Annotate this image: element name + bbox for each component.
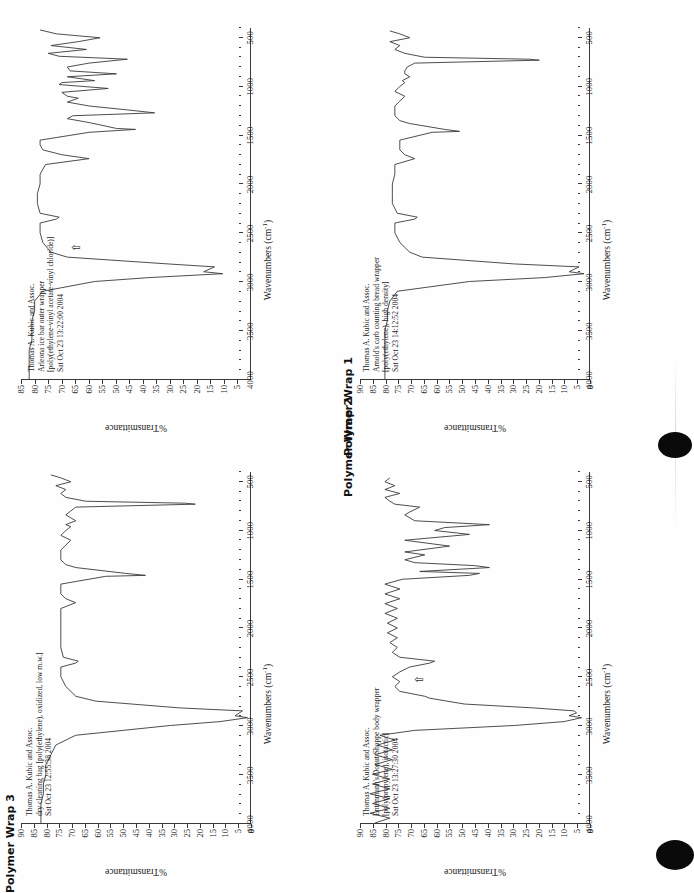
y-tick — [174, 824, 175, 828]
rotated-canvas: 4000350030002500200015001000500 90858075… — [348, 6, 668, 436]
y-tick — [238, 824, 239, 828]
y-tick — [187, 824, 188, 828]
y-tick-label: 90 — [355, 829, 365, 838]
y-tick-label: 60 — [93, 829, 103, 838]
y-tick — [564, 380, 565, 384]
y-tick — [424, 824, 425, 828]
y-tick — [590, 380, 591, 384]
y-tick-label: 25 — [521, 385, 531, 394]
y-tick-label: 55 — [97, 385, 107, 394]
y-tick-label: 40 — [483, 829, 493, 838]
y-tick — [501, 824, 502, 828]
y-tick-label: 55 — [105, 829, 115, 838]
y-tick — [526, 380, 527, 384]
y-tick — [149, 824, 150, 828]
y-tick — [462, 824, 463, 828]
y-tick-label: 40 — [483, 385, 493, 394]
y-tick — [213, 824, 214, 828]
y-tick-label: 70 — [57, 385, 67, 394]
y-tick — [110, 824, 111, 828]
y-tick — [577, 380, 578, 384]
y-tick-label: 85 — [368, 829, 378, 838]
y-tick — [501, 380, 502, 384]
y-tick-label: 55 — [444, 385, 454, 394]
y-tick-label: 10 — [220, 829, 230, 838]
y-tick-label: 65 — [70, 385, 80, 394]
annotation-block-arnolds: Thomas A. Kubic and Assoc. Arnold's carb… — [362, 257, 401, 372]
rotated-canvas: 4000350030002500200015001000500 90858075… — [9, 450, 329, 880]
y-tick — [48, 380, 49, 384]
y-tick — [475, 380, 476, 384]
y-tick — [72, 824, 73, 828]
y-tick — [89, 380, 90, 384]
y-tick — [552, 824, 553, 828]
y-tick — [373, 824, 374, 828]
y-tick-label: 75 — [393, 385, 403, 394]
y-tick — [398, 824, 399, 828]
y-tick-label: 80 — [381, 829, 391, 838]
y-tick — [34, 824, 35, 828]
y-tick — [136, 824, 137, 828]
y-tick-label: 50 — [457, 385, 467, 394]
y-tick — [224, 380, 225, 384]
y-tick-label: 15 — [208, 829, 218, 838]
y-tick-label: 75 — [54, 829, 64, 838]
y-tick — [75, 380, 76, 384]
y-tick-label: 15 — [547, 385, 557, 394]
y-tick-label: 45 — [131, 829, 141, 838]
y-tick-label: 35 — [496, 385, 506, 394]
y-tick — [85, 824, 86, 828]
rotated-canvas: 4000350030002500200015001000500 90858075… — [348, 450, 668, 880]
y-tick — [462, 380, 463, 384]
y-tick-label: 60 — [432, 385, 442, 394]
y-tick-group: 9085807570656055504540353025201510500 — [21, 472, 251, 824]
y-tick — [156, 380, 157, 384]
y-tick-label: 20 — [534, 385, 544, 394]
y-tick-label: 85 — [16, 385, 26, 394]
y-tick-label: 45 — [124, 385, 134, 394]
annotation-block-entenmanns: Thomas A. Kubic and Assoc. Entenmann's D… — [362, 688, 401, 816]
y-tick-label: 80 — [42, 829, 52, 838]
y-tick — [98, 824, 99, 828]
y-tick — [116, 380, 117, 384]
y-tick-label: 90 — [16, 829, 26, 838]
caption-polymer-wrap-3: Polymer Wrap 3 — [4, 794, 17, 893]
y-tick-label: 0 — [246, 829, 256, 833]
y-tick-label: 30 — [165, 385, 175, 394]
y-tick — [411, 824, 412, 828]
y-tick-label: 50 — [111, 385, 121, 394]
y-tick — [437, 380, 438, 384]
y-tick — [35, 380, 36, 384]
panel-spectrum-entenmanns-donut-wrapper: 4000350030002500200015001000500 90858075… — [339, 446, 678, 893]
y-tick-label: 20 — [195, 829, 205, 838]
y-tick — [488, 824, 489, 828]
annotation-block-arleona: Thomas A. Kubic and Assoc. Arleona ice b… — [27, 237, 66, 372]
y-tick-label: 0 — [585, 829, 595, 833]
y-tick — [488, 380, 489, 384]
y-tick — [102, 380, 103, 384]
y-tick-label: 65 — [419, 385, 429, 394]
y-tick — [577, 824, 578, 828]
y-tick — [210, 380, 211, 384]
y-tick-label: 70 — [406, 829, 416, 838]
y-tick — [197, 380, 198, 384]
y-tick — [225, 824, 226, 828]
x-axis-title: Wavenumbers (cm-1) — [600, 220, 612, 300]
caption-polymer-wrap-2: Polymer Wrap 2 — [342, 398, 355, 497]
y-axis-title: %Transmittance — [105, 423, 167, 433]
y-tick — [360, 380, 361, 384]
y-tick — [21, 824, 22, 828]
cursor-marker-icon: ⇧ — [71, 243, 82, 252]
y-tick-label: 55 — [444, 829, 454, 838]
y-tick — [590, 824, 591, 828]
page-edge-shadow — [675, 0, 676, 893]
y-tick — [552, 380, 553, 384]
y-tick — [373, 380, 374, 384]
y-tick-label: 40 — [144, 829, 154, 838]
y-tick — [513, 380, 514, 384]
y-tick — [526, 824, 527, 828]
panel-spectrum-arleona-ice-bar: 4000350030002500200015001000500 85807570… — [0, 0, 339, 446]
y-tick — [449, 824, 450, 828]
y-axis-title: %Transmittance — [105, 867, 167, 877]
